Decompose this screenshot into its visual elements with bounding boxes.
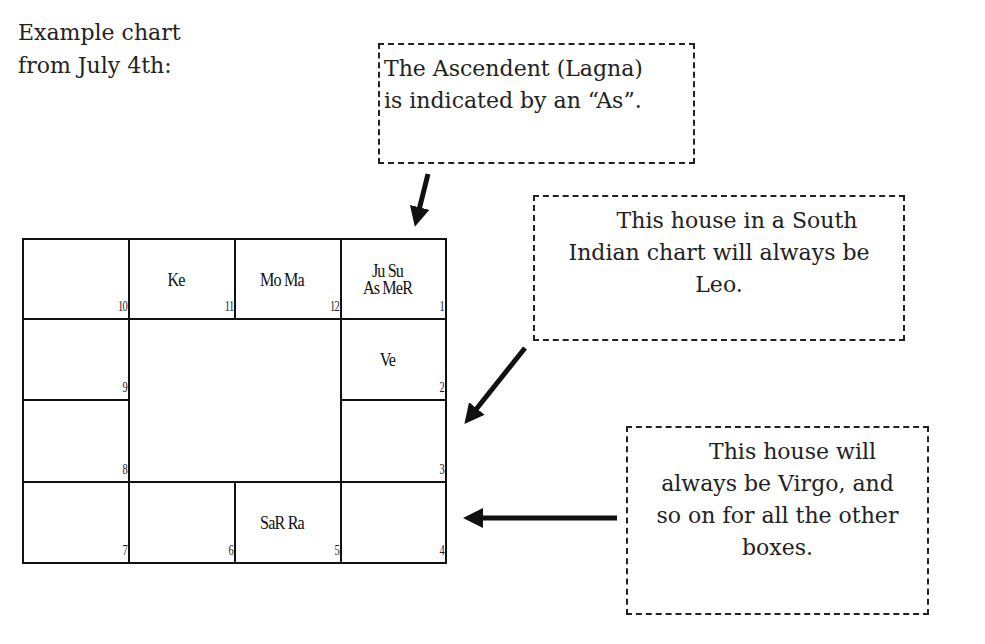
- planet-label: Ke: [167, 271, 184, 288]
- house-planets: Ve: [349, 320, 426, 399]
- house-12: Mo Ma 12: [234, 238, 342, 320]
- house-number: 7: [123, 544, 128, 558]
- house-11: Ke 11: [128, 238, 236, 320]
- leo-note: This house in a South Indian chart will …: [533, 195, 905, 341]
- house-number: 6: [229, 544, 234, 558]
- note-line: so on for all the other: [628, 500, 927, 532]
- note-line: always be Virgo, and: [628, 468, 927, 500]
- planet-label: Ve: [380, 351, 395, 368]
- planet-label: Mo Ma: [260, 271, 304, 288]
- house-9: 9: [22, 318, 130, 401]
- note-line: Leo.: [535, 269, 903, 301]
- house-number: 5: [335, 544, 340, 558]
- house-number: 2: [440, 381, 445, 395]
- intro-caption: Example chart from July 4th:: [18, 16, 181, 82]
- house-2: Ve 2: [340, 318, 447, 401]
- house-number: 1: [440, 300, 445, 314]
- intro-line: from July 4th:: [18, 49, 181, 82]
- house-4: 4: [340, 481, 447, 564]
- house-planets: Ju Su As MeR: [349, 240, 426, 318]
- house-number: 8: [123, 463, 128, 477]
- note-line: Indian chart will always be: [535, 237, 903, 269]
- house-planets: SaR Ra: [243, 483, 321, 562]
- house-number: 4: [440, 544, 445, 558]
- arrow-to-house-3-icon: [470, 348, 525, 417]
- house-planets: Mo Ma: [243, 240, 321, 318]
- house-number: 3: [440, 463, 445, 477]
- planet-label: As MeR: [363, 279, 412, 296]
- south-indian-chart: 10 Ke 11 Mo Ma 12 Ju Su As MeR 1 9 Ve 2 …: [22, 238, 447, 564]
- note-line: The Ascendent (Lagna): [384, 53, 693, 85]
- intro-line: Example chart: [18, 16, 181, 49]
- planet-label: SaR Ra: [260, 514, 304, 531]
- house-6: 6: [128, 481, 236, 564]
- house-1: Ju Su As MeR 1: [340, 238, 447, 320]
- house-7: 7: [22, 481, 130, 564]
- virgo-note: This house will always be Virgo, and so …: [626, 426, 929, 615]
- chart-centre: [128, 318, 342, 483]
- house-8: 8: [22, 399, 130, 483]
- house-number: 11: [224, 300, 233, 314]
- house-number: 12: [330, 300, 339, 314]
- note-line: is indicated by an “As”.: [384, 85, 693, 117]
- note-line: boxes.: [628, 532, 927, 564]
- ascendant-note: The Ascendent (Lagna) is indicated by an…: [378, 43, 695, 164]
- house-10: 10: [22, 238, 130, 320]
- arrow-to-house-1-icon: [417, 174, 428, 218]
- house-planets: Ke: [137, 240, 215, 318]
- house-number: 10: [118, 300, 127, 314]
- house-number: 9: [123, 381, 128, 395]
- house-planets: [31, 240, 109, 318]
- note-line: This house will: [628, 436, 927, 468]
- house-3: 3: [340, 399, 447, 483]
- house-5: SaR Ra 5: [234, 481, 342, 564]
- note-line: This house in a South: [535, 205, 903, 237]
